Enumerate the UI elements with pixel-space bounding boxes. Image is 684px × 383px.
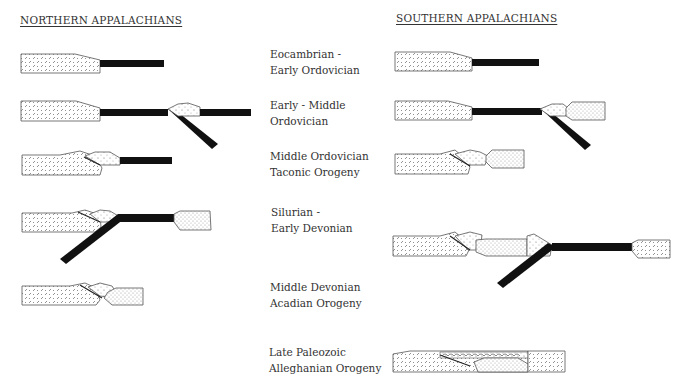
north-stage-2-early-middle-ordovician	[21, 101, 251, 149]
plate-tectonic-cross-sections	[0, 0, 684, 383]
north-stage-1-eocambrian	[21, 54, 164, 73]
south-stage-3-taconic	[395, 150, 524, 174]
north-stage-3-taconic	[22, 151, 172, 175]
south-stage-2-early-middle-ordovician	[395, 101, 605, 150]
south-stage-4-silurian	[393, 232, 670, 288]
north-stage-4-silurian	[22, 210, 211, 264]
north-stage-5-acadian	[22, 283, 143, 305]
south-stage-1-eocambrian	[395, 52, 539, 71]
south-stage-5-alleghanian	[393, 351, 565, 372]
